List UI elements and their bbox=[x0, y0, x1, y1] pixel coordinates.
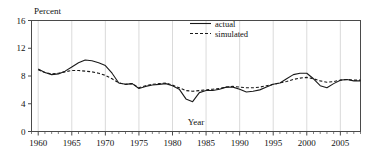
chart-figure: 0481216 19601965197019751980198519901995… bbox=[0, 0, 369, 156]
x-tick-label: 2005 bbox=[331, 138, 350, 148]
x-tick-label: 1995 bbox=[264, 138, 283, 148]
x-tick-label: 1960 bbox=[29, 138, 48, 148]
y-tick-label: 8 bbox=[21, 71, 26, 81]
y-tick-label: 12 bbox=[17, 43, 26, 53]
y-tick-label: 4 bbox=[21, 99, 26, 109]
x-axis-label: Year bbox=[188, 117, 205, 127]
x-tick-label: 1965 bbox=[63, 138, 82, 148]
y-axis-label: Percent bbox=[34, 6, 61, 16]
x-tick-label: 1990 bbox=[231, 138, 250, 148]
y-tick-label: 16 bbox=[17, 16, 27, 26]
x-tick-label: 1980 bbox=[164, 138, 183, 148]
line-chart: 0481216 19601965197019751980198519901995… bbox=[0, 0, 369, 156]
x-tick-label: 1975 bbox=[130, 138, 149, 148]
y-tick-label: 0 bbox=[21, 127, 26, 137]
x-tick-label: 2000 bbox=[298, 138, 317, 148]
legend-label-actual: actual bbox=[215, 19, 236, 29]
x-tick-label: 1970 bbox=[96, 138, 115, 148]
x-tick-label: 1985 bbox=[197, 138, 216, 148]
legend-label-simulated: simulated bbox=[215, 29, 249, 39]
